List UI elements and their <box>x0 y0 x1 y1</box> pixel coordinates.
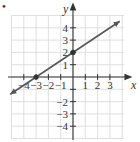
y-tick-label: 3 <box>63 34 69 46</box>
bullet-marker: • <box>1 1 7 12</box>
axes <box>8 4 131 140</box>
coordinate-graph: • −4−3−2−1123−4−3−21234 x y <box>0 0 140 142</box>
data-point <box>70 50 75 55</box>
x-tick-label: −2 <box>43 79 55 91</box>
y-tick-label: −2 <box>56 96 68 108</box>
y-tick-label: 4 <box>63 22 69 34</box>
y-tick-label: −4 <box>56 120 68 132</box>
y-axis-label: y <box>62 2 69 16</box>
x-tick-label: 1 <box>83 79 89 91</box>
x-tick-label: −3 <box>30 79 42 91</box>
y-tick-label: 1 <box>63 59 69 71</box>
data-point <box>34 74 39 79</box>
x-tick-label: 3 <box>107 79 113 91</box>
x-tick-label: 2 <box>95 79 101 91</box>
y-tick-label: −3 <box>56 108 68 120</box>
x-axis-label: x <box>130 78 137 92</box>
y-axis-arrow-icon <box>71 4 76 10</box>
x-tick-label: −1 <box>55 79 67 91</box>
